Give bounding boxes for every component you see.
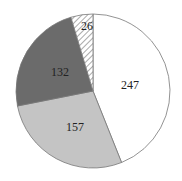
slice-label-247: 247 [121,78,139,92]
pie-slices [16,14,170,168]
slice-label-26: 26 [81,19,93,33]
pie-chart: 24715713226 [0,0,182,181]
slice-label-132: 132 [51,65,69,79]
slice-label-157: 157 [66,120,84,134]
